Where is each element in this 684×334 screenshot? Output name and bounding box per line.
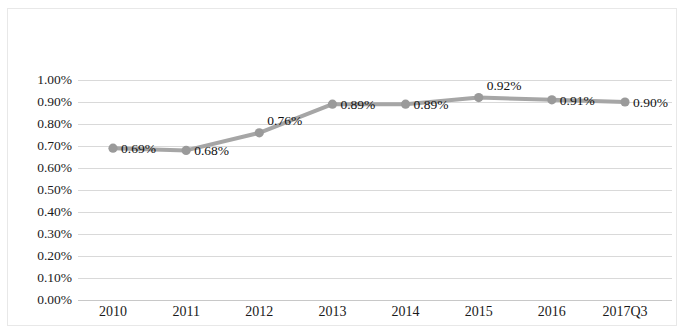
data-point-label: 0.69% (121, 142, 156, 156)
data-point-label: 0.76% (267, 114, 302, 128)
data-point-marker (108, 144, 117, 153)
data-point-marker (255, 128, 264, 137)
data-point-marker (547, 95, 556, 104)
data-series-layer (0, 0, 684, 334)
data-point-label: 0.92% (487, 79, 522, 93)
data-point-label: 0.90% (633, 96, 668, 110)
data-point-label: 0.91% (560, 94, 595, 108)
data-point-label: 0.89% (340, 98, 375, 112)
data-point-marker (401, 100, 410, 109)
data-point-label: 0.89% (414, 98, 449, 112)
data-point-label: 0.68% (194, 145, 229, 159)
data-point-marker (620, 97, 629, 106)
data-point-marker (474, 93, 483, 102)
line-chart: 1.00%0.90%0.80%0.70%0.60%0.50%0.40%0.30%… (0, 0, 684, 334)
data-point-marker (328, 100, 337, 109)
data-point-marker (182, 146, 191, 155)
